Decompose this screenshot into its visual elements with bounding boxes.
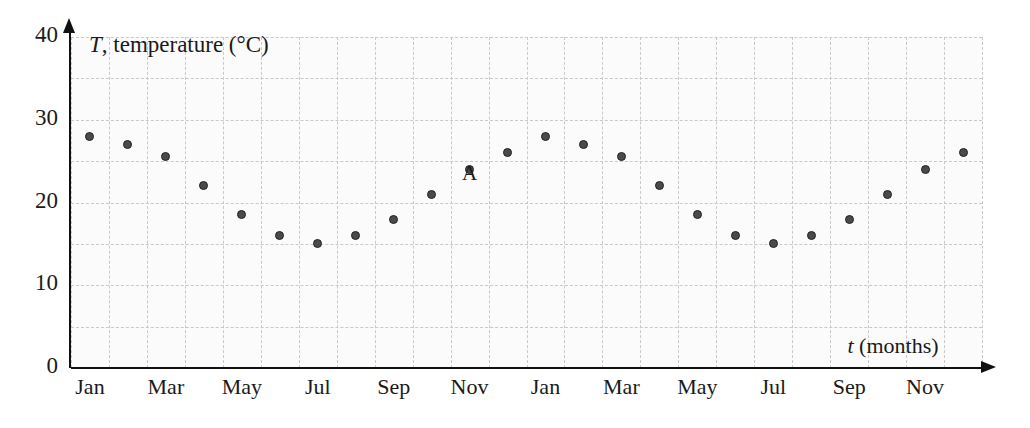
x-axis-tick-label: Jan xyxy=(531,374,560,400)
y-axis-symbol: T xyxy=(89,32,102,57)
x-axis-line xyxy=(71,367,983,369)
y-axis-arrow-icon xyxy=(63,18,75,33)
x-axis-tick-label: Nov xyxy=(906,374,944,400)
y-axis-tick-label: 40 xyxy=(0,22,58,48)
gridline-horizontal xyxy=(71,78,982,79)
x-axis-tick-label: Sep xyxy=(833,374,866,400)
x-axis-tick-label: Mar xyxy=(603,374,640,400)
plot-area xyxy=(71,37,982,368)
x-axis-tick-label: Jan xyxy=(75,374,104,400)
data-point xyxy=(541,132,550,141)
data-point xyxy=(579,140,588,149)
data-point xyxy=(807,231,816,240)
x-axis-tick-label: Mar xyxy=(148,374,185,400)
y-axis-title-text: , temperature (°C) xyxy=(102,32,269,57)
x-axis-arrow-icon xyxy=(981,361,996,373)
gridline-horizontal xyxy=(71,120,982,121)
gridline-horizontal xyxy=(71,327,982,328)
y-axis-tick-label: 10 xyxy=(0,270,58,296)
y-axis-line xyxy=(69,30,71,368)
x-axis-tick-label: May xyxy=(222,374,262,400)
gridline-horizontal xyxy=(71,161,982,162)
y-axis-title: T, temperature (°C) xyxy=(89,32,269,58)
y-axis-tick-label: 20 xyxy=(0,188,58,214)
x-axis-tick-label: Jul xyxy=(760,374,786,400)
data-point xyxy=(959,148,968,157)
data-point xyxy=(731,231,740,240)
gridline-horizontal xyxy=(71,203,982,204)
x-axis-tick-label: May xyxy=(677,374,717,400)
data-point-label-a: A xyxy=(462,161,477,186)
x-axis-tick-label: Sep xyxy=(377,374,410,400)
x-axis-title-text: (months) xyxy=(854,333,939,358)
x-axis-tick-label: Jul xyxy=(305,374,331,400)
data-point xyxy=(427,190,436,199)
data-point xyxy=(845,215,854,224)
gridline-horizontal xyxy=(71,244,982,245)
data-point xyxy=(389,215,398,224)
y-axis-tick-label: 30 xyxy=(0,105,58,131)
gridline-horizontal xyxy=(71,285,982,286)
chart-figure: T, temperature (°C) t (months) 010203040… xyxy=(0,0,1030,428)
data-point xyxy=(883,190,892,199)
y-axis-tick-label: 0 xyxy=(0,353,58,379)
gridline-vertical xyxy=(982,37,983,368)
x-axis-tick-label: Nov xyxy=(451,374,489,400)
data-point xyxy=(921,165,930,174)
x-axis-title: t (months) xyxy=(847,333,938,359)
